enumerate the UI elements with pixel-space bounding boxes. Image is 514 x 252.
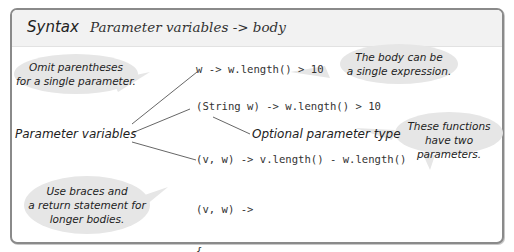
note-line: a return statement for <box>24 198 150 212</box>
note-single-expression: The body can be a single expression. <box>340 50 458 78</box>
code-single-param: w -> w.length() > 10 <box>196 62 324 76</box>
note-braces: Use braces and a return statement for lo… <box>24 184 150 226</box>
code-block: (v, w) -> { int difference = v.length() … <box>196 174 477 252</box>
code-two-params: (v, w) -> v.length() - w.length() <box>196 152 406 166</box>
note-line: Use braces and <box>24 184 150 198</box>
code-typed-param: (String w) -> w.length() > 10 <box>196 99 381 113</box>
note-line: have two parameters. <box>395 133 503 161</box>
note-line: a single expression. <box>340 64 458 78</box>
note-line: for a single parameter. <box>14 74 138 88</box>
code-line: { <box>196 244 477 252</box>
note-line: The body can be <box>340 50 458 64</box>
note-line: These functions <box>395 119 503 133</box>
note-line: longer bodies. <box>24 212 150 226</box>
label-optional-type: Optional parameter type <box>252 127 401 141</box>
note-two-parameters: These functions have two parameters. <box>395 119 503 161</box>
note-omit-parentheses: Omit parentheses for a single parameter. <box>14 60 138 88</box>
code-line: (v, w) -> <box>196 202 477 216</box>
label-parameter-variables: Parameter variables <box>15 127 136 141</box>
note-line: Omit parentheses <box>14 60 138 74</box>
